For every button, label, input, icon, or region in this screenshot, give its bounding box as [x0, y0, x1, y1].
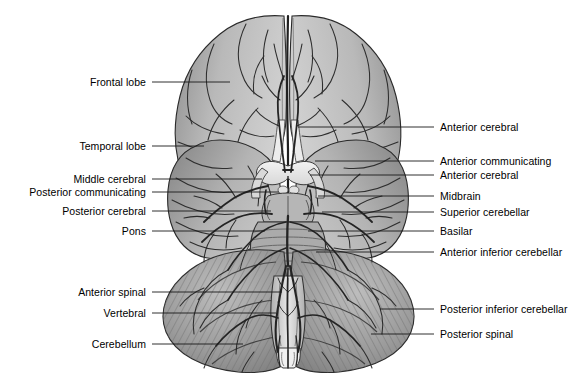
label-midbrain: Midbrain	[440, 191, 481, 202]
label-pons: Pons	[122, 226, 146, 237]
label-frontal-lobe: Frontal lobe	[90, 77, 146, 88]
artery-basilar	[287, 216, 288, 266]
label-posterior-communicating: Posterior communicating	[29, 187, 146, 198]
brain-anatomy-figure: Frontal lobeTemporal lobeMiddle cerebral…	[0, 0, 577, 384]
label-anterior-inferior-cerebellar: Anterior inferior cerebellar	[440, 247, 562, 258]
label-posterior-cerebral: Posterior cerebral	[62, 206, 146, 217]
artery-anterior-spinal	[287, 268, 288, 368]
label-vertebral: Vertebral	[104, 308, 146, 319]
label-anterior-cerebral: Anterior cerebral	[440, 122, 518, 133]
label-basilar: Basilar	[440, 226, 472, 237]
label-cerebellum: Cerebellum	[92, 339, 146, 350]
label-posterior-spinal: Posterior spinal	[440, 329, 513, 340]
label-superior-cerebellar: Superior cerebellar	[440, 207, 530, 218]
label-middle-cerebral: Middle cerebral	[73, 174, 146, 185]
label-anterior-cerebral: Anterior cerebral	[440, 170, 518, 181]
label-temporal-lobe: Temporal lobe	[79, 141, 146, 152]
label-posterior-inferior-cerebellar: Posterior inferior cerebellar	[440, 304, 568, 315]
label-anterior-communicating: Anterior communicating	[440, 156, 551, 167]
label-anterior-spinal: Anterior spinal	[78, 287, 146, 298]
